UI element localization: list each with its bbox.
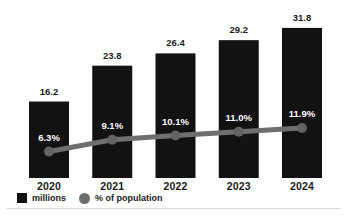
legend-label-millions: millions (32, 193, 66, 203)
line-marker-2021 (107, 135, 117, 145)
bar-value-label-2024: 31.8 (293, 12, 312, 23)
x-axis-label-2023: 2023 (227, 180, 251, 192)
bar-value-label-2023: 29.2 (230, 24, 249, 35)
line-marker-2020 (44, 147, 54, 157)
bar-value-label-2020: 16.2 (40, 86, 59, 97)
percent-label-2021: 9.1% (101, 120, 123, 131)
x-axis-label-2020: 2020 (37, 180, 61, 192)
bar-value-label-2022: 26.4 (166, 37, 185, 48)
legend-item-millions: millions (17, 193, 66, 203)
chart-figure: 16.2202023.8202126.4202229.2202331.82024… (0, 0, 345, 223)
percent-label-2020: 6.3% (38, 132, 60, 143)
bar-value-label-2021: 23.8 (103, 50, 122, 61)
chart-svg: 16.2202023.8202126.4202229.2202331.82024… (0, 0, 345, 223)
legend-swatch-0 (17, 193, 27, 203)
x-axis-label-2022: 2022 (163, 180, 187, 192)
line-marker-2024 (297, 123, 307, 133)
line-marker-2023 (234, 127, 244, 137)
bottom-divider (6, 208, 340, 209)
legend-label-percent-of-population: % of population (95, 193, 163, 203)
percent-label-2023: 11.0% (226, 112, 253, 123)
legend-swatch-1 (79, 193, 90, 204)
x-axis-label-2024: 2024 (290, 180, 314, 192)
line-marker-2022 (171, 131, 181, 141)
bar-2023 (219, 40, 259, 178)
x-axis-label-2021: 2021 (100, 180, 124, 192)
percent-label-2024: 11.9% (289, 108, 316, 119)
legend-item-percent-of-population: % of population (79, 193, 163, 204)
legend: millions % of population (17, 192, 163, 204)
bar-2024 (282, 28, 322, 178)
percent-label-2022: 10.1% (162, 116, 189, 127)
